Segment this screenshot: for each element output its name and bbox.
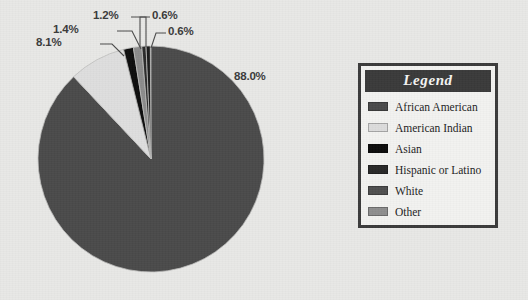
legend-item-label: White bbox=[395, 185, 423, 197]
callout-06-b: 0.6% bbox=[168, 25, 193, 37]
callout-14: 1.4% bbox=[53, 23, 78, 35]
legend-swatch-icon bbox=[368, 123, 388, 132]
legend-item: Hispanic or Latino bbox=[368, 159, 489, 180]
pie-slice-group bbox=[38, 46, 264, 272]
legend-item-label: American Indian bbox=[395, 122, 473, 134]
legend-swatch-icon bbox=[368, 207, 388, 216]
leader-line-12 bbox=[131, 17, 146, 47]
legend-item: Asian bbox=[368, 138, 489, 159]
legend-item-label: African American bbox=[395, 101, 478, 113]
leader-line-14 bbox=[117, 31, 141, 49]
legend-item-label: Other bbox=[395, 206, 421, 218]
callout-12: 1.2% bbox=[93, 9, 118, 21]
legend-swatch-icon bbox=[368, 144, 388, 153]
legend-swatch-icon bbox=[368, 102, 388, 111]
leader-line-06-a bbox=[140, 17, 150, 47]
legend-item: Other bbox=[368, 201, 489, 222]
legend-item: American Indian bbox=[368, 117, 489, 138]
legend-item: African American bbox=[368, 96, 489, 117]
callout-81: 8.1% bbox=[36, 36, 61, 48]
legend-swatch-icon bbox=[368, 165, 388, 174]
chart-page: 88.0% 8.1% 1.4% 1.2% 0.6% 0.6% Legend Af… bbox=[0, 0, 528, 300]
callout-88: 88.0% bbox=[234, 70, 266, 82]
legend-item-label: Asian bbox=[395, 143, 422, 155]
legend-item: White bbox=[368, 180, 489, 201]
legend-item-label: Hispanic or Latino bbox=[395, 164, 481, 176]
pie-chart: 88.0% 8.1% 1.4% 1.2% 0.6% 0.6% bbox=[0, 0, 330, 300]
legend-swatch-icon bbox=[368, 186, 388, 195]
callout-06-a: 0.6% bbox=[152, 9, 177, 21]
legend-box: Legend African AmericanAmerican IndianAs… bbox=[358, 63, 498, 228]
legend-title: Legend bbox=[365, 70, 491, 92]
legend-item-list: African AmericanAmerican IndianAsianHisp… bbox=[365, 92, 491, 222]
